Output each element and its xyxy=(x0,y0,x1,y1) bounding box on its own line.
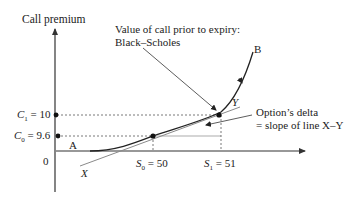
point-b-label: B xyxy=(254,43,261,55)
c1-axis-dot xyxy=(54,113,59,118)
bs-annotation-line1: Value of call prior to expiry: xyxy=(115,23,240,35)
origin-label: 0 xyxy=(43,155,49,167)
point-a-label: A xyxy=(69,139,77,151)
point-s0-c0 xyxy=(150,133,155,138)
delta-annotation-line2: = slope of line X–Y xyxy=(256,119,343,131)
y-axis-label: Call premium xyxy=(22,13,86,25)
bs-pointer xyxy=(143,48,216,110)
s1-tick-label: S1 = 51 xyxy=(204,157,236,174)
c1-tick-label: C1 = 10 xyxy=(17,108,51,125)
bs-annotation-line2: Black–Scholes xyxy=(115,36,180,48)
c0-tick-label: C0 = 9.6 xyxy=(14,129,50,146)
s0-tick-label: S0 = 50 xyxy=(136,157,168,174)
point-y-label: Y xyxy=(232,96,238,108)
bs-pointer-tick xyxy=(239,78,242,83)
point-s1-c1 xyxy=(216,112,221,117)
c0-axis-dot xyxy=(56,134,61,139)
point-x-label: X xyxy=(81,167,88,179)
delta-annotation-line1: Option’s delta xyxy=(256,106,318,118)
